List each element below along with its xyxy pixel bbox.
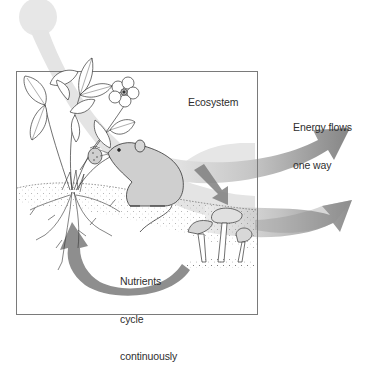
flower <box>109 77 139 107</box>
nutrients-label-line1: Nutrients <box>120 275 177 288</box>
strawberry <box>88 146 102 164</box>
energy-flows-label: Energy flows one way <box>293 96 352 196</box>
strawberry-plant <box>24 58 135 190</box>
nutrients-cycle-label: Nutrients cycle continuously <box>120 250 177 366</box>
ecosystem-label: Ecosystem <box>188 96 238 109</box>
energy-label-line1: Energy flows <box>293 121 352 134</box>
nutrients-label-line3: continuously <box>120 350 177 363</box>
energy-label-line2: one way <box>293 159 352 172</box>
nutrients-label-line2: cycle <box>120 313 177 326</box>
